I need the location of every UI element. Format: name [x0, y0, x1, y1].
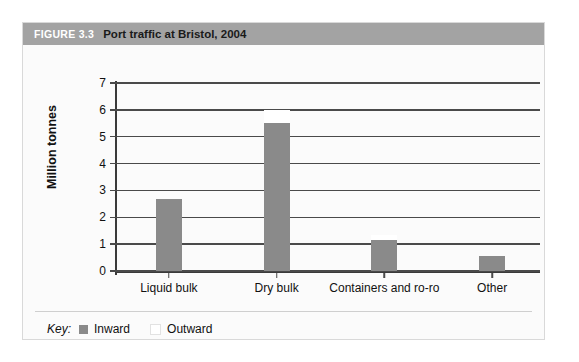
y-axis-tick — [110, 163, 115, 165]
x-axis-tick — [384, 273, 386, 278]
y-axis-tick-label: 3 — [99, 183, 106, 197]
y-axis-tick-label: 1 — [99, 237, 106, 251]
figure-number-label: FIGURE 3.3 — [34, 28, 94, 40]
y-axis-tick-label: 6 — [99, 103, 106, 117]
gridline — [115, 163, 540, 165]
gridline — [115, 136, 540, 138]
y-axis-tick — [110, 109, 115, 111]
x-axis-tick — [491, 273, 493, 278]
y-axis-tick — [110, 243, 115, 245]
x-axis-tick-label: Containers and ro-ro — [329, 281, 439, 295]
chart-bar — [479, 256, 505, 271]
gridline — [115, 190, 540, 192]
y-axis-tick-label: 7 — [99, 76, 106, 90]
y-axis-tick-label: 4 — [99, 157, 106, 171]
gridline — [115, 82, 540, 84]
bar-segment-inward — [479, 256, 505, 271]
y-axis-tick — [110, 217, 115, 219]
x-axis-tick-label: Liquid bulk — [140, 281, 197, 295]
y-axis-tick-label: 5 — [99, 130, 106, 144]
gridline — [115, 109, 540, 111]
x-axis-tick-label: Other — [477, 281, 507, 295]
chart-legend: Key: Inward Outward — [47, 322, 232, 336]
bar-segment-inward — [264, 123, 290, 271]
x-axis-tick — [276, 273, 278, 278]
chart-bar — [371, 235, 397, 271]
y-axis-tick — [110, 270, 115, 272]
legend-separator — [35, 311, 532, 312]
plot-region: Million tonnes 01234567 Key: Inward Outw… — [23, 45, 544, 339]
chart-plot-area: 01234567 — [115, 83, 546, 271]
legend-title: Key: — [47, 322, 71, 336]
bar-segment-outward — [264, 110, 290, 123]
legend-swatch-outward — [150, 324, 161, 335]
figure-container: FIGURE 3.3 Port traffic at Bristol, 2004… — [22, 22, 545, 340]
legend-item-outward: Outward — [150, 322, 212, 336]
y-axis-tick-label: 2 — [99, 210, 106, 224]
bar-segment-inward — [156, 199, 182, 272]
legend-label-inward: Inward — [94, 322, 130, 336]
figure-title-bar: FIGURE 3.3 Port traffic at Bristol, 2004 — [23, 23, 544, 45]
chart-bar — [264, 110, 290, 271]
y-axis-tick — [110, 190, 115, 192]
y-axis-tick — [110, 82, 115, 84]
chart-bar — [156, 199, 182, 272]
figure-title-text: Port traffic at Bristol, 2004 — [103, 28, 246, 40]
y-axis-title: Million tonnes — [45, 105, 61, 189]
legend-item-inward: Inward — [79, 322, 130, 336]
y-axis-tick-label: 0 — [99, 264, 106, 278]
y-axis-tick — [110, 136, 115, 138]
legend-swatch-inward — [79, 325, 88, 334]
x-axis-tick-label: Dry bulk — [255, 281, 299, 295]
x-axis-tick — [168, 273, 170, 278]
bar-segment-inward — [371, 240, 397, 271]
legend-label-outward: Outward — [167, 322, 212, 336]
